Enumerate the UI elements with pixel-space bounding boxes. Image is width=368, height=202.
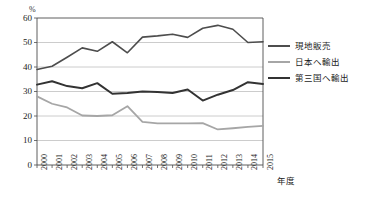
- x-axis-tick-label: 2005: [116, 154, 124, 170]
- x-axis-title: 年度: [277, 177, 295, 186]
- y-axis-tick-label: 40: [8, 63, 32, 72]
- x-axis-tick-label: 2003: [86, 154, 94, 170]
- x-axis-tick-label: 2000: [41, 154, 49, 170]
- line-chart: % 現地販売 日本へ輸出 第三国へ輸出 年度 01020304050602000…: [0, 0, 368, 202]
- x-axis-tick-label: 2006: [131, 154, 139, 170]
- y-axis-tick-label: 0: [8, 161, 32, 170]
- legend-item-1: 日本へ輸出: [268, 54, 368, 70]
- plot-area: [0, 0, 368, 202]
- series-line-2: [37, 81, 263, 100]
- series-line-0: [37, 25, 263, 69]
- x-axis-tick-label: 2010: [191, 154, 199, 170]
- x-axis-tick-label: 2002: [71, 154, 79, 170]
- x-axis-tick-label: 2007: [146, 154, 154, 170]
- x-axis-tick-label: 2009: [176, 154, 184, 170]
- x-axis-tick-label: 2004: [101, 154, 109, 170]
- legend-swatch-line-icon: [268, 45, 290, 47]
- y-axis-tick-label: 30: [8, 87, 32, 96]
- legend-label: 第三国へ輸出: [295, 74, 349, 83]
- x-axis-tick-label: 2011: [206, 154, 214, 170]
- legend-item-2: 第三国へ輸出: [268, 70, 368, 86]
- x-axis-tick-label: 2012: [221, 154, 229, 170]
- legend-item-0: 現地販売: [268, 38, 368, 54]
- legend-swatch-line-icon: [268, 77, 290, 79]
- y-axis-tick-label: 10: [8, 136, 32, 145]
- legend-label: 現地販売: [295, 42, 331, 51]
- y-axis-tick-label: 50: [8, 38, 32, 47]
- x-axis-tick-label: 2008: [161, 154, 169, 170]
- series-line-1: [37, 96, 263, 129]
- legend-swatch-line-icon: [268, 61, 290, 63]
- chart-legend: 現地販売 日本へ輸出 第三国へ輸出: [268, 38, 368, 86]
- legend-label: 日本へ輸出: [295, 58, 340, 67]
- x-axis-tick-label: 2001: [56, 154, 64, 170]
- x-axis-tick-label: 2015: [267, 154, 275, 170]
- y-axis-tick-label: 60: [8, 14, 32, 23]
- y-axis-tick-label: 20: [8, 112, 32, 121]
- x-axis-tick-label: 2014: [251, 154, 259, 170]
- x-axis-tick-label: 2013: [236, 154, 244, 170]
